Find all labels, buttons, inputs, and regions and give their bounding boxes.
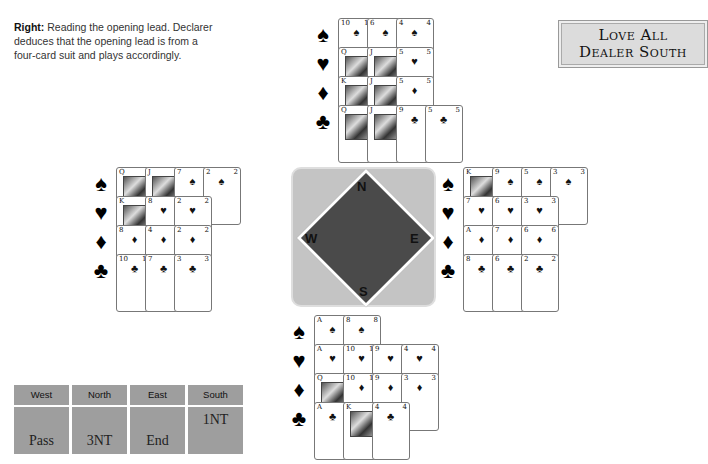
card-rank: 3 xyxy=(524,198,528,205)
diamonds-pip-icon: ♦ xyxy=(522,234,558,245)
bid-text: Pass xyxy=(29,433,54,448)
card-west-clubs: 33♣ xyxy=(174,254,212,312)
card-rank: 2 xyxy=(177,198,181,205)
bid-text: End xyxy=(146,433,169,448)
compass-east: E xyxy=(410,231,419,246)
card-rank: J xyxy=(370,107,373,114)
card-rank: 3 xyxy=(432,375,436,382)
card-rank: 3 xyxy=(552,198,556,205)
card-rank: J xyxy=(370,49,373,56)
card-rank: 5 xyxy=(399,78,403,85)
spades-icon: ♠ xyxy=(90,173,112,195)
hearts-pip-icon: ♥ xyxy=(402,353,438,364)
card-rank: J xyxy=(370,78,373,85)
auction-header-south: South xyxy=(188,385,243,405)
compass-south: S xyxy=(359,284,368,299)
card-rank: A xyxy=(317,346,322,353)
card-rank: 10 xyxy=(346,375,355,382)
hearts-icon: ♥ xyxy=(312,53,334,75)
card-rank: 10 xyxy=(346,346,355,353)
card-rank: 10 xyxy=(341,20,350,27)
dealer-line: Dealer South xyxy=(559,44,707,61)
card-rank: K xyxy=(466,169,471,176)
card-rank: A xyxy=(317,317,322,324)
card-rank: 5 xyxy=(456,107,460,114)
clubs-icon: ♣ xyxy=(437,260,459,282)
auction-header-north: North xyxy=(72,385,127,405)
card-rank: 2 xyxy=(234,169,238,176)
hearts-pip-icon: ♥ xyxy=(397,56,433,67)
card-rank: J xyxy=(148,169,151,176)
card-rank: 9 xyxy=(399,107,403,114)
card-north-clubs: 55♣ xyxy=(425,105,463,163)
card-rank: 2 xyxy=(206,169,210,176)
card-rank: 7 xyxy=(177,169,181,176)
hearts-icon: ♥ xyxy=(288,350,310,372)
card-rank: 2 xyxy=(552,256,556,263)
card-rank: 10 xyxy=(119,256,128,263)
auction-table: West North East South Pass 3NT End 1NT xyxy=(14,385,243,454)
spades-pip-icon: ♠ xyxy=(551,176,587,187)
spades-icon: ♠ xyxy=(288,321,310,343)
spades-pip-icon: ♠ xyxy=(397,27,433,38)
face-card-art xyxy=(374,114,398,140)
spades-icon: ♠ xyxy=(437,173,459,195)
card-rank: 4 xyxy=(404,346,408,353)
auction-header-west: West xyxy=(14,385,69,405)
card-rank: 6 xyxy=(524,227,528,234)
card-rank: 5 xyxy=(427,49,431,56)
card-rank: 3 xyxy=(553,169,557,176)
card-rank: K xyxy=(346,404,351,411)
card-rank: 3 xyxy=(205,256,209,263)
auction-bid-south: 1NT xyxy=(188,407,243,454)
card-rank: 2 xyxy=(177,227,181,234)
card-rank: 2 xyxy=(205,198,209,205)
vulnerability-line: Love All xyxy=(559,27,707,44)
spades-pip-icon: ♠ xyxy=(344,324,380,335)
card-rank: 4 xyxy=(148,227,152,234)
card-rank: 2 xyxy=(205,227,209,234)
card-rank: 5 xyxy=(427,78,431,85)
diamonds-pip-icon: ♦ xyxy=(402,382,438,393)
vulnerability-box: Love All Dealer South xyxy=(558,20,708,68)
card-south-clubs: 44♣ xyxy=(372,402,410,460)
card-rank: Q xyxy=(341,107,347,114)
card-rank: 5 xyxy=(399,49,403,56)
card-rank: 3 xyxy=(177,256,181,263)
card-rank: 8 xyxy=(119,227,123,234)
caption: Right: Reading the opening lead. Declare… xyxy=(14,20,214,62)
auction-header-east: East xyxy=(130,385,185,405)
card-rank: 9 xyxy=(375,346,379,353)
caption-lead: Right: xyxy=(14,21,44,33)
card-rank: 6 xyxy=(495,198,499,205)
card-rank: 8 xyxy=(374,317,378,324)
clubs-icon: ♣ xyxy=(288,408,310,430)
auction-bid-east: End xyxy=(130,407,185,454)
card-east-clubs: 22♣ xyxy=(521,254,559,312)
card-rank: A xyxy=(317,404,322,411)
card-rank: K xyxy=(119,198,124,205)
hearts-pip-icon: ♥ xyxy=(522,205,558,216)
face-card-art xyxy=(350,411,374,437)
card-rank: 8 xyxy=(346,317,350,324)
hearts-icon: ♥ xyxy=(437,202,459,224)
diamonds-icon: ♦ xyxy=(312,82,334,104)
card-rank: Q xyxy=(119,169,125,176)
compass: N W E S xyxy=(291,167,436,307)
clubs-pip-icon: ♣ xyxy=(426,114,462,125)
bid-text: 3NT xyxy=(87,433,113,448)
card-rank: 7 xyxy=(495,227,499,234)
card-rank: 5 xyxy=(428,107,432,114)
card-rank: 6 xyxy=(495,256,499,263)
card-rank: 3 xyxy=(404,375,408,382)
card-rank: 8 xyxy=(148,198,152,205)
diamonds-icon: ♦ xyxy=(90,231,112,253)
card-rank: A xyxy=(466,227,471,234)
diamonds-pip-icon: ♦ xyxy=(175,234,211,245)
card-rank: 4 xyxy=(432,346,436,353)
card-rank: 6 xyxy=(552,227,556,234)
card-rank: 3 xyxy=(581,169,585,176)
auction-bid-north: 3NT xyxy=(72,407,127,454)
compass-west: W xyxy=(305,231,317,246)
card-rank: 8 xyxy=(466,256,470,263)
